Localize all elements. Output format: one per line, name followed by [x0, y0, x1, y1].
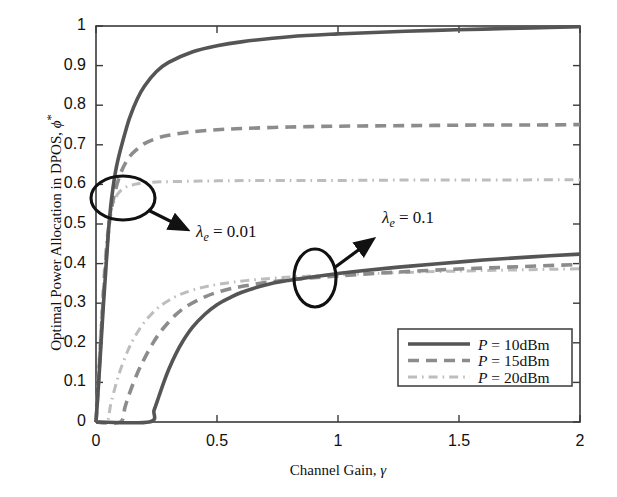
x-tick-label: 1 [298, 432, 378, 450]
phi-star-symbol: ϕ* [48, 114, 64, 128]
gamma-symbol: γ [380, 462, 386, 478]
y-tick-label: 0 [36, 412, 86, 430]
x-axis-title: Channel Gain, γ [188, 462, 488, 479]
y-axis-title: Optimal Power Allocation in DPOS, ϕ* [44, 83, 65, 383]
legend: P = 10dBmP = 15dBmP = 20dBm [398, 329, 572, 386]
annotation-label-lambda-01: λe = 0.1 [382, 208, 434, 231]
legend-label-1: P = 10dBm [477, 336, 550, 353]
legend-label-3: P = 20dBm [477, 369, 550, 386]
x-tick-label: 1.5 [419, 432, 499, 450]
x-tick-label: 2 [540, 432, 617, 450]
x-tick-label: 0.5 [177, 432, 257, 450]
x-axis-title-text: Channel Gain, [290, 462, 380, 478]
y-axis-title-text: Optimal Power Allocation in DPOS, [48, 128, 64, 351]
y-tick-label: 0.9 [36, 56, 86, 74]
annotation-label-lambda-001: λe = 0.01 [196, 222, 257, 245]
annotation-1-value: = 0.01 [209, 222, 257, 241]
annotation-2-value: = 0.1 [395, 208, 434, 227]
y-tick-label: 1 [36, 16, 86, 34]
legend-label-2: P = 15dBm [477, 352, 550, 369]
chart-plot-area: P = 10dBmP = 15dBmP = 20dBm [0, 0, 617, 497]
figure-container: P = 10dBmP = 15dBmP = 20dBm 00.10.20.30.… [0, 0, 617, 497]
x-tick-label: 0 [56, 432, 136, 450]
